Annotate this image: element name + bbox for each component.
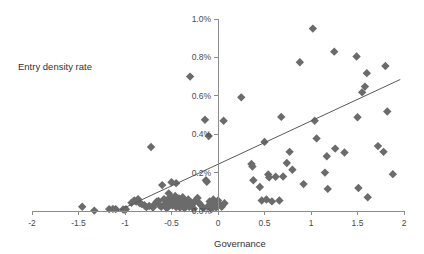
x-axis-title: Governance bbox=[214, 238, 266, 249]
scatter-chart: -2-1.5-1-0.500.511.520.0%0.2%0.4%0.6%0.8… bbox=[0, 0, 424, 254]
chart-text-layer: Entry density rate Governance bbox=[0, 0, 424, 254]
series-label: Entry density rate bbox=[18, 61, 92, 72]
